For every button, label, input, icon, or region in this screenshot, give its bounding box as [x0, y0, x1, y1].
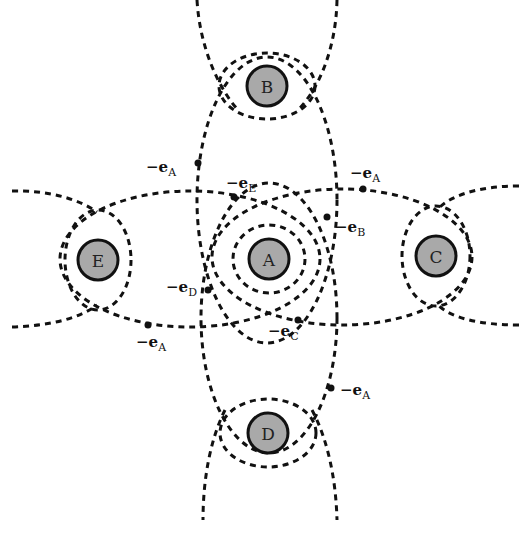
- atom-a: A: [249, 239, 289, 279]
- curve-b-right: [298, 0, 337, 110]
- svg-text:B: B: [261, 77, 274, 97]
- label-minus-eb: −eB: [335, 218, 365, 239]
- curve-e-bottom: [12, 305, 97, 327]
- label-minus-ed: −eD: [166, 278, 197, 299]
- svg-text:C: C: [429, 247, 442, 267]
- marker-dot: [231, 194, 238, 201]
- curve-d-right: [312, 410, 337, 520]
- label-minus-ec: −eC: [268, 322, 299, 343]
- atom-b: B: [247, 66, 287, 106]
- label-minus-ea-3: −eA: [136, 333, 167, 354]
- marker-dot: [195, 160, 202, 167]
- curve-c-bottom: [437, 304, 519, 325]
- atom-d: D: [248, 413, 288, 453]
- marker-dot: [328, 385, 335, 392]
- label-minus-ea-4: −eA: [340, 381, 371, 402]
- marker-dot: [360, 186, 367, 193]
- marker-dot: [324, 214, 331, 221]
- label-minus-ee: −eE: [226, 174, 256, 195]
- curve-e-top: [12, 191, 97, 212]
- svg-text:A: A: [262, 250, 276, 270]
- marker-dot: [295, 317, 302, 324]
- marker-dot: [205, 287, 212, 294]
- curve-b-left: [197, 0, 238, 110]
- diagram-canvas: A B C D E −eA −eE −eA −eB −eD −eC −eA −e…: [0, 0, 519, 538]
- label-minus-ea-1: −eA: [146, 158, 177, 179]
- atom-e: E: [78, 240, 118, 280]
- atom-c: C: [416, 236, 456, 276]
- marker-dot: [145, 322, 152, 329]
- svg-text:D: D: [261, 424, 275, 444]
- curve-c-top: [437, 186, 519, 210]
- svg-text:E: E: [92, 251, 104, 271]
- label-minus-ea-2: −eA: [350, 164, 381, 185]
